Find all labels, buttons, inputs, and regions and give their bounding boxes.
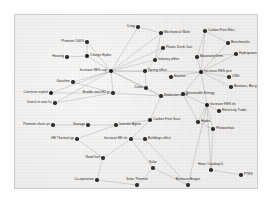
graph-node-spring-office[interactable] [143, 69, 146, 72]
graph-canvas[interactable]: CraigMechanical WorkCarbon Free Elec.Pro… [14, 14, 258, 189]
graph-node-label-buildings-office: Buildings office [148, 137, 171, 141]
graph-node-label-industry-office: Industry office [158, 58, 179, 62]
graph-node-gasoline[interactable] [71, 80, 74, 83]
graph-node-electricity-trade[interactable] [217, 109, 220, 112]
graph-node-label-co-operation: Co-operation [74, 178, 94, 182]
graph-node-nuclear[interactable] [169, 75, 172, 78]
graph-node-promote-share-pv[interactable] [51, 123, 54, 126]
graph-edge [111, 27, 138, 71]
graph-node-label-gasoline: Gasoline [57, 80, 70, 84]
graph-node-label-heat-cooling-d: Heat / Cooling D. [198, 163, 224, 167]
graph-node-label-mechanical-work: Mechanical Work [164, 31, 190, 35]
graph-node-label-increase-res-pen: Increase RES pen. [204, 70, 233, 74]
graph-node-label-spring-office: Spring office [148, 69, 167, 73]
graph-node-label-increase-ee: Increase EE sh. [104, 137, 128, 141]
graph-node-co-operation[interactable] [95, 178, 98, 181]
graph-edge [183, 94, 198, 122]
graph-edge [201, 72, 207, 105]
graph-edge [67, 56, 87, 57]
graph-node-electricity-dem[interactable] [195, 55, 198, 58]
graph-node-buildings-office[interactable] [143, 137, 146, 140]
graph-node-label-costs: Costs [134, 86, 143, 90]
graph-node-increase-ee[interactable] [129, 137, 132, 140]
network-graph-figure: CraigMechanical WorkCarbon Free Elec.Pro… [0, 0, 270, 202]
graph-node-label-increase-res-cap: Increase RES cap. [80, 69, 108, 73]
graph-node-label-invest-in-new-fu: Invest in new fu. [27, 101, 52, 105]
graph-node-cng[interactable] [227, 75, 230, 78]
graph-node-road-fuel[interactable] [101, 156, 104, 159]
graph-edge [111, 71, 113, 93]
graph-node-heat-cooling-d[interactable] [209, 168, 212, 171]
graph-edge [103, 139, 131, 158]
graph-node-label-carbon-free-sour: Carbon Free Sour. [153, 118, 181, 122]
graph-node-enable-own-hc[interactable] [111, 91, 114, 94]
graph-node-label-electricity-trade: Electricity Trade [222, 109, 246, 113]
graph-node-carbon-free-sour[interactable] [148, 118, 151, 121]
graph-node-label-heating: Heating [52, 55, 64, 59]
graph-edge [113, 93, 161, 96]
graph-node-label-reduction-of-ff: Reduction of FF [164, 94, 188, 98]
graph-node-label-photovoltaic: Photovoltaic [216, 127, 235, 131]
graph-node-label-carbon-free-elec: Carbon Free Elec. [208, 29, 236, 33]
graph-edge [211, 170, 241, 175]
graph-node-label-promote-share-pv: Promote share pv [23, 123, 50, 127]
graph-node-hydropower[interactable] [234, 52, 237, 55]
graph-node-label-nuclear: Nuclear [174, 75, 186, 79]
graph-edge [138, 27, 161, 33]
graph-edge [207, 105, 211, 170]
graph-node-label-renewable-energy: Renewable Energy [186, 92, 215, 96]
graph-node-biomass-biogas[interactable] [186, 183, 189, 186]
graph-node-label-increase-res-sh: Increase RES sh. [210, 103, 236, 107]
graph-node-storage[interactable] [86, 123, 89, 126]
graph-edge [188, 105, 207, 185]
graph-node-label-hydropower: Hydropower [239, 52, 257, 56]
graph-node-investor-agree[interactable] [114, 123, 117, 126]
graph-node-reduction-of-ff[interactable] [159, 94, 162, 97]
graph-node-he-thermal-pp[interactable] [75, 137, 78, 140]
graph-node-mechanical-work[interactable] [159, 31, 162, 34]
graph-edge [97, 158, 103, 180]
graph-node-benchmarks[interactable] [226, 41, 229, 44]
graph-node-solar[interactable] [151, 166, 154, 169]
graph-node-label-enable-own-hc: Enable own HC p. [83, 91, 110, 95]
graph-node-label-storage: Storage [73, 123, 85, 127]
graph-node-label-biomass-bio-gas: Biomass, Bio gas [234, 85, 258, 89]
graph-node-label-electricity-dem: Electricity Dem. [200, 55, 224, 59]
graph-node-label-charge-hydro: Charge Hydro [90, 54, 111, 58]
graph-node-label-solar: Solar [149, 161, 157, 165]
graph-node-craig[interactable] [136, 25, 139, 28]
graph-node-hydro[interactable] [196, 120, 199, 123]
graph-node-costs[interactable] [144, 86, 147, 89]
graph-node-heating[interactable] [65, 55, 68, 58]
graph-node-label-solar-thermal: Solar Thermal [126, 178, 147, 182]
graph-node-label-road-fuel: Road fuel [85, 156, 100, 160]
graph-node-label-benchmarks: Benchmarks [231, 41, 250, 45]
graph-edge [201, 72, 231, 87]
graph-node-label-craig: Craig [127, 25, 135, 29]
graph-node-ptes[interactable] [239, 173, 242, 176]
graph-node-label-ptes: PTES [244, 173, 253, 177]
graph-node-industry-office[interactable] [153, 58, 156, 61]
graph-node-carbon-free-elec[interactable] [203, 29, 206, 32]
graph-node-label-cng: CNG [232, 75, 239, 79]
graph-node-label-biomass-biogas: Biomass Biogas [176, 178, 200, 182]
graph-edge [205, 31, 228, 43]
graph-node-label-investor-agree: Investor Agree. [119, 123, 142, 127]
graph-node-plastic-drink-can[interactable] [161, 46, 164, 49]
graph-node-label-he-thermal-pp: HE Thermal pp [51, 137, 74, 141]
graph-node-photovoltaic[interactable] [211, 127, 214, 130]
graph-node-label-plastic-drink-can: Plastic Drink Can [166, 46, 192, 50]
graph-node-biomass-bio-gas[interactable] [229, 85, 232, 88]
graph-node-label-promote-100: Promote 100% [62, 40, 84, 44]
graph-node-label-continue-exploit: Continue exploit [24, 91, 48, 95]
graph-node-label-hydro: Hydro [201, 120, 210, 124]
graph-node-promote-100[interactable] [85, 40, 88, 43]
graph-node-invest-in-new-fu[interactable] [53, 101, 56, 104]
graph-node-solar-thermal[interactable] [135, 183, 138, 186]
